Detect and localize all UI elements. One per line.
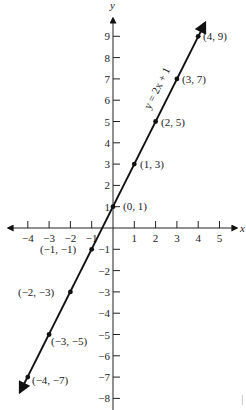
data-point: [153, 119, 158, 124]
y-tick-label: −5: [98, 329, 110, 341]
data-point: [68, 290, 73, 295]
point-label-4-9: (4, 9): [203, 30, 227, 43]
y-tick-label: 7: [105, 73, 111, 85]
y-tick-label: 8: [105, 52, 111, 64]
point-label-0-1: (0, 1): [123, 200, 147, 213]
data-point: [196, 34, 201, 39]
point-label-m2-m3: (−2, −3): [18, 286, 55, 299]
point-label-3-7: (3, 7): [182, 73, 206, 86]
y-tick-label: 2: [105, 179, 111, 191]
y-tick-label: −1: [98, 243, 110, 255]
y-tick-label: −8: [98, 392, 110, 404]
equation-label: y = 2x + 1: [141, 65, 172, 111]
point-label-1-3: (1, 3): [140, 158, 164, 171]
data-point: [89, 247, 94, 252]
y-tick-label: −6: [98, 350, 110, 362]
coordinate-plane: x y −4−3−2−112345 987654321−1−2−3−4−5−6−…: [0, 0, 246, 410]
point-label-2-5: (2, 5): [161, 116, 185, 129]
point-label-m1-m1: (−1, −1): [40, 243, 77, 256]
y-tick-label: 9: [105, 30, 111, 42]
x-axis-label: x: [239, 222, 245, 234]
y-ticks: 987654321−1−2−3−4−5−6−7−8: [98, 30, 120, 404]
y-axis-label: y: [109, 0, 115, 11]
data-point: [25, 375, 30, 380]
x-tick-label: 2: [153, 232, 159, 244]
y-tick-label: 4: [105, 137, 111, 149]
y-tick-label: 3: [105, 158, 111, 170]
y-tick-label: −7: [98, 371, 110, 383]
x-ticks: −4−3−2−112345: [22, 221, 223, 244]
y-tick-label: −4: [98, 307, 110, 319]
point-label-m4-m7: (−4, −7): [32, 374, 69, 387]
y-tick-label: 1: [105, 201, 111, 213]
point-label-m3-m5: (−3, −5): [51, 335, 88, 348]
y-tick-label: −2: [98, 265, 110, 277]
data-point: [111, 204, 116, 209]
data-point: [175, 77, 180, 82]
data-point: [132, 162, 137, 167]
y-tick-label: −3: [98, 286, 110, 298]
x-tick-label: −4: [22, 232, 34, 244]
x-tick-label: 4: [195, 232, 201, 244]
x-tick-label: 5: [217, 232, 223, 244]
x-tick-label: 1: [132, 232, 138, 244]
y-tick-label: 5: [105, 116, 111, 128]
edge-mark: [242, 395, 243, 405]
x-tick-label: 3: [174, 232, 180, 244]
y-tick-label: 6: [105, 94, 111, 106]
